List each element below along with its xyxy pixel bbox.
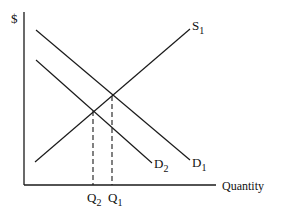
supply-demand-diagram: $ S1 D2 D1 Quantity Q2 Q1 bbox=[0, 0, 281, 216]
x-axis-label: Quantity bbox=[222, 179, 264, 193]
y-axis-label: $ bbox=[11, 11, 18, 26]
q1-label: Q1 bbox=[108, 190, 122, 208]
supply-label: S1 bbox=[192, 18, 204, 36]
q2-label: Q2 bbox=[87, 190, 101, 208]
demand1-label: D1 bbox=[192, 155, 206, 173]
demand-curve-d2 bbox=[36, 60, 152, 163]
demand2-label: D2 bbox=[154, 156, 168, 174]
